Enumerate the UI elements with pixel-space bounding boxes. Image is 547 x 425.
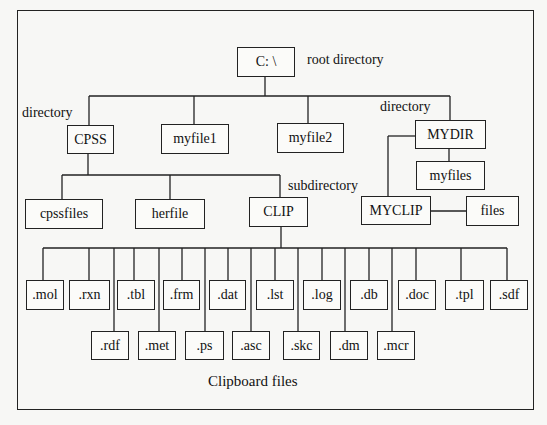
file-ext-frm: .frm	[163, 280, 200, 310]
cpss-directory-node: CPSS	[67, 125, 114, 154]
myclip-node: MYCLIP	[361, 196, 431, 225]
file-ext-tbl: .tbl	[117, 280, 155, 310]
mydir-directory-node: MYDIR	[415, 120, 486, 149]
file-ext-mcr: .mcr	[377, 331, 415, 360]
file-ext-rxn: .rxn	[69, 280, 110, 310]
subdirectory-label: subdirectory	[288, 178, 358, 194]
root-directory-label: root directory	[307, 52, 384, 68]
myfile1-node: myfile1	[161, 124, 229, 154]
file-ext-skc: .skc	[283, 331, 320, 360]
cpssfiles-node: cpssfiles	[25, 199, 103, 229]
myfile2-node: myfile2	[277, 123, 344, 153]
directory-label-left: directory	[22, 105, 73, 121]
herfile-node: herfile	[135, 199, 205, 229]
file-ext-tpl: .tpl	[445, 280, 484, 310]
file-ext-dm: .dm	[330, 331, 368, 360]
file-ext-db: .db	[350, 280, 388, 310]
directory-label-right: directory	[380, 99, 431, 115]
file-ext-rdf: .rdf	[91, 331, 129, 360]
file-ext-lst: .lst	[256, 280, 294, 310]
file-ext-log: .log	[303, 280, 341, 310]
file-ext-ps: .ps	[185, 331, 224, 360]
file-ext-dat: .dat	[209, 280, 246, 310]
file-ext-met: .met	[138, 331, 176, 360]
file-ext-doc: .doc	[398, 280, 436, 310]
file-ext-sdf: .sdf	[490, 280, 528, 310]
root-directory-node: C: \	[237, 47, 295, 77]
myfiles-node: myfiles	[416, 161, 485, 190]
file-ext-mol: .mol	[26, 280, 64, 310]
clipboard-files-caption: Clipboard files	[208, 373, 298, 390]
directory-tree-diagram: C: \ root directory directory CPSS myfil…	[0, 0, 547, 425]
files-node: files	[466, 196, 519, 226]
file-ext-asc: .asc	[232, 331, 270, 360]
clip-subdirectory-node: CLIP	[249, 197, 308, 227]
